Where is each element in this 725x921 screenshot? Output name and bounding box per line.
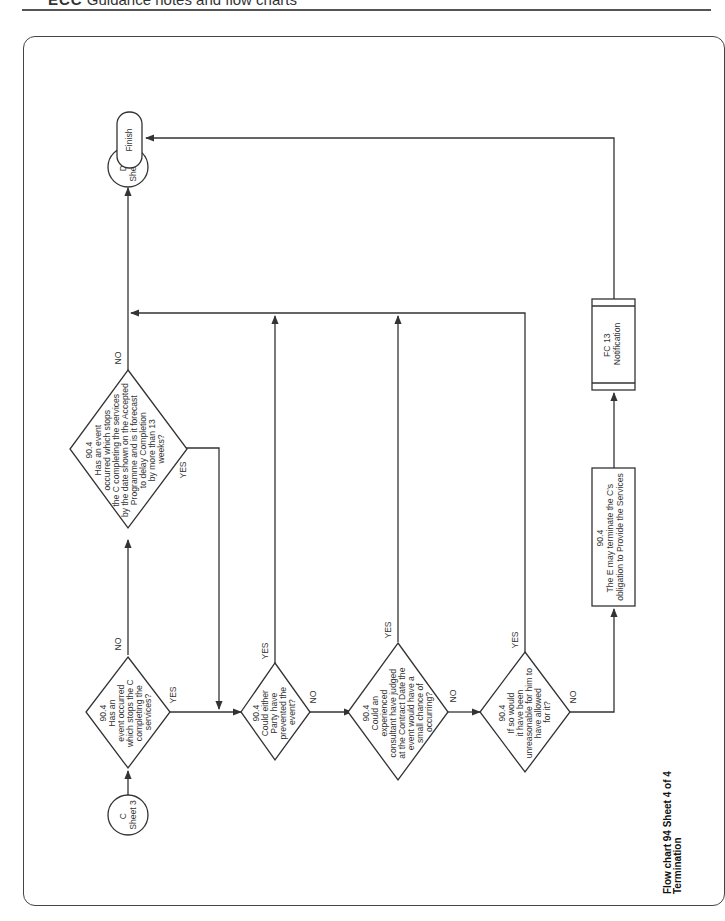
edge-d2-yes-to-d3 bbox=[186, 448, 219, 709]
svg-text:90.4 Has an event: 90.4 Has an event occurred which stops t… bbox=[84, 381, 166, 517]
label-d4-no: NO bbox=[448, 689, 458, 702]
start-connector: C Sheet 3 bbox=[108, 795, 148, 835]
subprocess-fc13: FC 13 Notification bbox=[592, 299, 635, 390]
edge-labels: NO YES NO YES YES NO YES NO YES NO bbox=[113, 351, 578, 703]
chart-title: Flow chart 94 Sheet 4 of 4 Termination bbox=[662, 768, 683, 894]
label-d4-yes: YES bbox=[383, 621, 393, 638]
label-d2-no: NO bbox=[113, 351, 123, 364]
decision-d1: 90.4 Has an event occurred which stops t… bbox=[86, 657, 170, 768]
label-d5-yes: YES bbox=[510, 631, 520, 648]
decision-d2: 90.4 Has an event occurred which stops t… bbox=[70, 370, 187, 528]
decision-d4: 90.4 Could an experienced consultant hav… bbox=[348, 643, 448, 780]
label-d3-no: NO bbox=[308, 690, 318, 703]
decision-d5: 90.4 If so would it have been unreasonab… bbox=[480, 652, 570, 772]
decision-d3: 90.4 Could either Party have prevented t… bbox=[241, 663, 310, 760]
svg-text:Flow chart 94 Sheet 4 of 4: Flow chart 94 Sheet 4 of 4 Termination bbox=[662, 768, 683, 894]
action-terminate: 90.4 The E may terminate the C's obligat… bbox=[592, 468, 635, 606]
edge-d5-yes-to-bus bbox=[131, 313, 525, 652]
label-d2-yes: YES bbox=[178, 461, 188, 478]
edge-fc13-to-finish bbox=[146, 138, 614, 300]
svg-text:Finish: Finish bbox=[124, 128, 134, 151]
label-d3-yes: YES bbox=[260, 642, 270, 659]
label-d1-yes: YES bbox=[168, 686, 178, 703]
chart-title-line2: Termination bbox=[672, 838, 683, 894]
label-d5-no: NO bbox=[568, 690, 578, 703]
label-d1-no: NO bbox=[113, 637, 123, 650]
finish-terminator: Finish bbox=[117, 112, 142, 168]
